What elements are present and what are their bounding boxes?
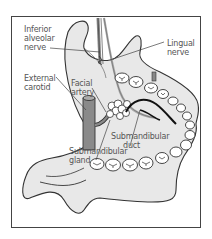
anatomy-diagram: Inferior alveolar nerve Lingual nerve Ex… bbox=[0, 0, 212, 239]
label-line: Submandibular bbox=[111, 132, 169, 141]
label-line: carotid bbox=[24, 83, 56, 92]
label-inferior-alveolar-nerve: Inferior alveolar nerve bbox=[24, 25, 55, 52]
label-external-carotid: External carotid bbox=[24, 74, 56, 92]
label-line: External bbox=[24, 74, 56, 83]
label-line: nerve bbox=[24, 43, 55, 52]
label-lingual-nerve: Lingual nerve bbox=[167, 39, 195, 57]
label-submandibular-gland: Submandibular gland bbox=[69, 147, 127, 165]
label-line: Facial bbox=[71, 79, 94, 88]
label-line: gland bbox=[69, 156, 127, 165]
label-facial-artery: Facial artery bbox=[71, 79, 94, 97]
label-line: nerve bbox=[167, 48, 195, 57]
label-line: Lingual bbox=[167, 39, 195, 48]
label-line: Inferior bbox=[24, 25, 55, 34]
external-carotid-artery bbox=[83, 98, 95, 150]
label-line: Submandibular bbox=[69, 147, 127, 156]
small-vessel bbox=[152, 72, 156, 81]
label-line: artery bbox=[71, 88, 94, 97]
label-line: alveolar bbox=[24, 34, 55, 43]
